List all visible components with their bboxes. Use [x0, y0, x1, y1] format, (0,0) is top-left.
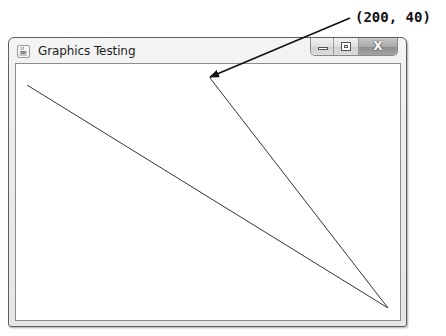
drawn-line-1 — [27, 85, 388, 308]
drawn-line-2 — [210, 78, 388, 308]
coordinate-annotation: (200, 40) — [355, 9, 431, 25]
drawing-overlay — [0, 0, 446, 336]
drawn-lines — [27, 78, 388, 308]
annotation-arrow — [210, 18, 350, 77]
